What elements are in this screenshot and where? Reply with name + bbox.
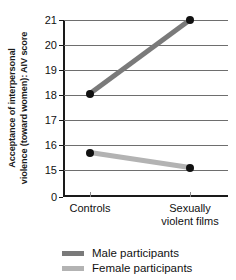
x-axis-tick: [190, 192, 191, 197]
chart-figure: Acceptance of interpersonal violence (to…: [0, 0, 236, 280]
legend-item: Female participants: [62, 261, 236, 276]
y-axis-tick-label: 18: [45, 90, 57, 101]
data-point-marker: [186, 16, 194, 24]
data-point-marker: [86, 149, 94, 157]
legend-swatch: [62, 266, 84, 271]
y-axis-tick: [59, 45, 63, 46]
legend-swatch: [62, 251, 84, 256]
y-axis-title-line-1: Acceptance of interpersonal: [7, 31, 19, 183]
gridline: [64, 170, 228, 171]
y-axis-tick: [59, 197, 63, 198]
y-axis-tick: [59, 95, 63, 96]
gridline: [64, 20, 228, 21]
y-axis-tick-label: 21: [45, 15, 57, 26]
chart-legend: Male participantsFemale participants: [62, 246, 236, 276]
data-point-marker: [86, 90, 94, 98]
gridline: [64, 45, 228, 46]
y-axis-tick-label: 20: [45, 40, 57, 51]
legend-label: Male participants: [92, 247, 179, 260]
y-axis-tick: [59, 20, 63, 21]
y-axis-tick-label: 17: [45, 115, 57, 126]
legend-item: Male participants: [62, 246, 236, 261]
y-axis-tick: [59, 170, 63, 171]
y-axis-tick-label: 19: [45, 65, 57, 76]
x-axis-tick-label-line: Controls: [70, 202, 111, 215]
y-axis-title: Acceptance of interpersonal violence (to…: [0, 0, 36, 215]
y-axis-tick-label: 15: [45, 165, 57, 176]
legend-label: Female participants: [92, 262, 192, 275]
x-axis-line: [63, 195, 228, 197]
data-point-marker: [186, 164, 194, 172]
plot-area: 212019181716150 ControlsSexuallyviolent …: [63, 20, 228, 197]
x-axis-tick-label-line: Sexually: [161, 202, 218, 215]
y-axis-tick: [59, 120, 63, 121]
x-axis-tick-label-line: violent films: [161, 215, 218, 228]
gridline: [64, 120, 228, 121]
y-axis-tick-label: 16: [45, 140, 57, 151]
series-line: [89, 18, 192, 96]
gridline: [64, 145, 228, 146]
series-line: [90, 150, 191, 170]
x-axis-tick: [90, 192, 91, 197]
x-axis-tick-label: Controls: [70, 202, 111, 215]
y-axis-title-line-2: violence (toward women): AIV score: [18, 31, 30, 183]
y-axis-tick: [59, 70, 63, 71]
y-axis-tick: [59, 145, 63, 146]
gridline: [64, 70, 228, 71]
x-axis-tick-label: Sexuallyviolent films: [161, 202, 218, 228]
y-axis-tick-label: 0: [51, 192, 57, 203]
